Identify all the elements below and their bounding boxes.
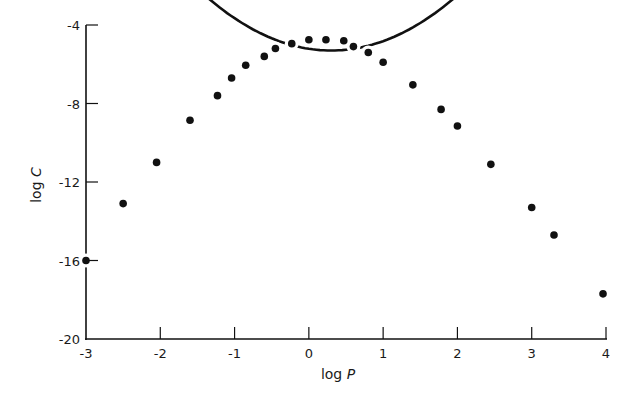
data-point — [550, 231, 558, 239]
y-tick-label: -12 — [59, 175, 80, 190]
data-point — [153, 159, 161, 167]
data-point — [272, 45, 280, 53]
x-tick-label: 1 — [379, 346, 387, 361]
data-point — [119, 200, 127, 208]
data-point — [487, 161, 495, 169]
data-point — [186, 116, 194, 124]
data-point — [228, 74, 236, 82]
data-point — [454, 122, 462, 130]
y-tick-label: -4 — [67, 18, 80, 33]
data-point — [288, 40, 296, 48]
y-axis-label: log C — [28, 167, 44, 203]
data-point — [260, 53, 268, 61]
data-point — [322, 36, 330, 44]
data-points — [79, 33, 610, 301]
data-point — [379, 58, 387, 66]
x-axis-ticks: -3-2-101234 — [80, 327, 611, 361]
y-tick-label: -16 — [59, 254, 80, 269]
x-tick-label: 3 — [528, 346, 536, 361]
x-tick-label: 2 — [453, 346, 461, 361]
data-point — [340, 37, 348, 45]
data-point — [599, 290, 607, 298]
data-point — [437, 106, 445, 114]
data-point — [350, 43, 358, 51]
data-point — [364, 49, 372, 57]
chart-canvas: -3-2-101234 -20-16-12-8-4 log P log C — [0, 0, 638, 401]
x-axis-label: log P — [321, 366, 356, 382]
x-tick-label: -2 — [154, 346, 167, 361]
data-point — [242, 61, 250, 69]
x-tick-label: 0 — [305, 346, 313, 361]
x-tick-label: -3 — [80, 346, 93, 361]
data-point — [214, 92, 222, 100]
x-tick-label: -1 — [228, 346, 241, 361]
data-point — [305, 36, 313, 44]
data-point — [409, 81, 417, 89]
y-tick-label: -20 — [59, 332, 80, 347]
data-point — [528, 204, 536, 212]
y-tick-label: -8 — [67, 97, 80, 112]
axes — [85, 25, 607, 340]
y-axis-ticks: -20-16-12-8-4 — [59, 18, 98, 347]
x-tick-label: 4 — [602, 346, 610, 361]
